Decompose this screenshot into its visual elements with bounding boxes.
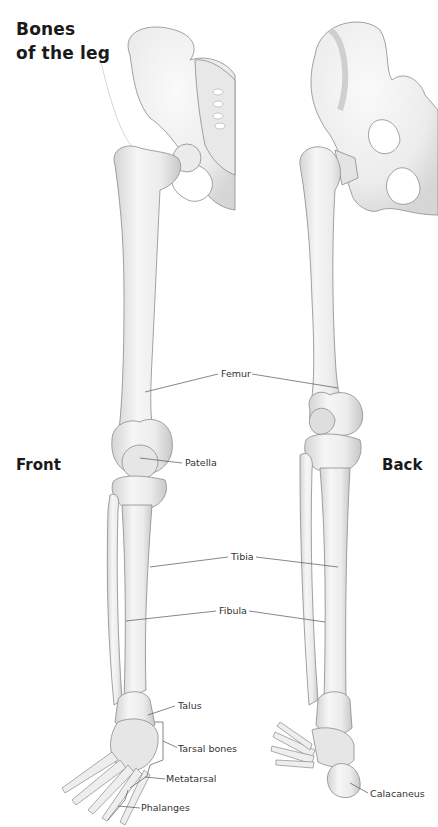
front-view-label: Front — [16, 456, 61, 474]
talus-label: Talus — [177, 700, 203, 712]
bones-of-leg-diagram: Bones of the leg Front Back Femur Patell… — [0, 0, 438, 827]
femur-label: Femur — [220, 368, 252, 380]
tibia-label: Tibia — [230, 551, 255, 563]
front-fibula — [107, 494, 122, 705]
front-knee — [112, 419, 173, 508]
back-foot — [271, 692, 360, 798]
leg-skeleton-illustration — [0, 0, 438, 827]
front-tibia — [122, 505, 152, 700]
back-fibula — [300, 453, 318, 705]
page-title: Bones of the leg — [16, 17, 110, 65]
calcaneus-label: Calacaneus — [369, 788, 426, 800]
phalanges-label: Phalanges — [140, 802, 191, 814]
metatarsal-label: Metatarsal — [165, 773, 217, 785]
tarsal-bones-label: Tarsal bones — [177, 743, 238, 755]
patella-label: Patella — [184, 457, 218, 469]
back-knee — [305, 392, 363, 470]
title-line-2: of the leg — [16, 41, 110, 65]
patella — [122, 445, 158, 479]
title-line-1: Bones — [16, 17, 110, 41]
fibula-label: Fibula — [218, 605, 248, 617]
back-tibia — [320, 468, 350, 700]
back-view-label: Back — [382, 456, 422, 474]
